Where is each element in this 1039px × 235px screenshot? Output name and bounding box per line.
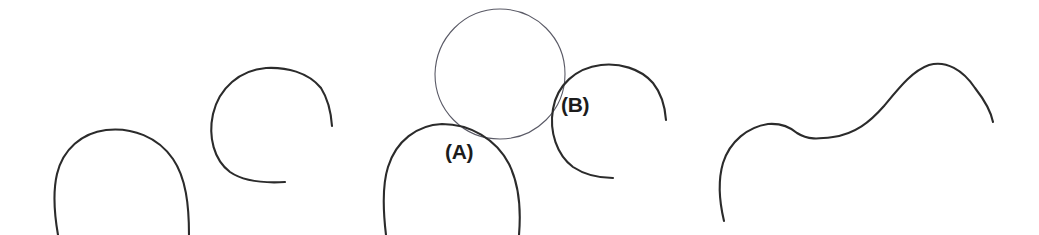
figure-canvas: (A) (B): [0, 0, 1039, 235]
curve-label-b: (B): [561, 93, 589, 116]
curve-label-a: (A): [445, 140, 473, 163]
